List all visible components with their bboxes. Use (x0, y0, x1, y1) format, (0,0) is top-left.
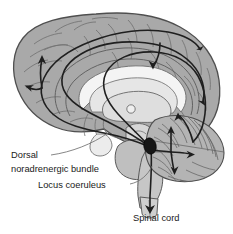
label-spinal-cord: Spinal cord (133, 213, 180, 223)
brain-diagram-figure: Dorsal noradrenergic bundle Locus coerul… (0, 0, 233, 234)
cerebellum-group (145, 116, 224, 183)
label-locus-coeruleus: Locus coeruleus (38, 180, 106, 190)
label-dorsal-bundle-line1: Dorsal (11, 150, 38, 160)
massa-intermedia (127, 105, 135, 113)
label-dorsal-bundle-line2: noradrenergic bundle (11, 164, 99, 174)
brain-diagram-svg: Dorsal noradrenergic bundle Locus coerul… (0, 0, 233, 234)
